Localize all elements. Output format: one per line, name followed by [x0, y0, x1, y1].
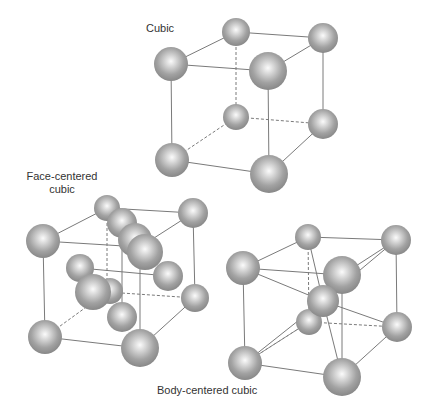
atom — [121, 329, 159, 367]
atom — [223, 104, 249, 130]
atom — [250, 155, 288, 193]
atom — [382, 312, 412, 342]
atom — [295, 224, 321, 250]
atom — [307, 285, 339, 317]
crystal-lattice-diagram — [0, 0, 433, 417]
atom — [153, 261, 183, 291]
fcc-label-line2: cubic — [16, 183, 108, 196]
atom — [249, 52, 287, 90]
cubic-label: Cubic — [146, 22, 174, 35]
fcc-label: Face-centered cubic — [16, 170, 108, 196]
atom — [308, 109, 338, 139]
atom — [308, 23, 338, 53]
atom — [127, 234, 163, 270]
atom — [26, 224, 60, 258]
atom — [228, 346, 262, 380]
atom — [222, 18, 250, 46]
fcc-atoms — [26, 195, 209, 367]
atom — [323, 358, 361, 396]
atom — [154, 47, 188, 81]
simple-cubic-atoms — [154, 18, 338, 193]
atom — [381, 225, 411, 255]
atom — [75, 274, 111, 310]
atom — [181, 284, 209, 312]
atom — [155, 143, 189, 177]
fcc-label-line1: Face-centered — [16, 170, 108, 183]
atom — [226, 251, 260, 285]
atom — [107, 302, 137, 332]
atom — [28, 320, 62, 354]
simple-cubic-lattice — [171, 32, 323, 174]
atom — [178, 198, 208, 228]
bcc-label: Body-centered cubic — [157, 384, 257, 397]
